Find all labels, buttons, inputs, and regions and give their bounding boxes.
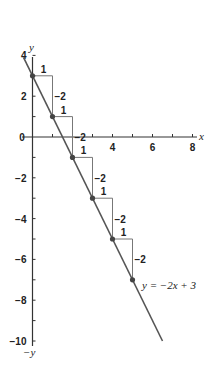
- run-label: 1: [41, 64, 47, 75]
- run-label: 1: [121, 227, 127, 238]
- x-tick-label: 8: [190, 142, 196, 153]
- rise-label: −2: [115, 214, 127, 225]
- equation-label: y = −2x + 3: [141, 279, 197, 291]
- line-graph: 046842−2−4−6−8−10 1−21−21−21−21−2 y = −2…: [0, 0, 219, 376]
- data-point: [90, 196, 95, 201]
- y-tick-label: −8: [15, 295, 27, 306]
- run-label: 1: [101, 186, 107, 197]
- y-tick-label: −2: [15, 173, 27, 184]
- y-tick-label: −6: [15, 254, 27, 265]
- run-label: 1: [81, 145, 87, 156]
- x-tick-label: 0: [19, 132, 25, 143]
- x-axis-label: x: [198, 130, 204, 142]
- rise-label: −2: [135, 254, 147, 265]
- y-tick-label: −4: [15, 214, 27, 225]
- rise-run-steps: 1−21−21−21−21−2: [33, 64, 147, 280]
- run-label: 1: [61, 105, 67, 116]
- y-tick-label: 2: [21, 91, 27, 102]
- rise-label: −2: [55, 91, 67, 102]
- y-axis-label: y: [28, 41, 34, 53]
- x-tick-label: 6: [150, 142, 156, 153]
- data-point: [110, 236, 115, 241]
- neg-y-axis-label: −y: [23, 346, 35, 358]
- axes: 046842−2−4−6−8−10: [10, 50, 197, 347]
- data-point: [70, 155, 75, 160]
- data-point: [130, 277, 135, 282]
- x-tick-label: 4: [110, 142, 116, 153]
- rise-label: −2: [75, 132, 87, 143]
- data-point: [30, 73, 35, 78]
- data-point: [50, 114, 55, 119]
- rise-label: −2: [95, 173, 107, 184]
